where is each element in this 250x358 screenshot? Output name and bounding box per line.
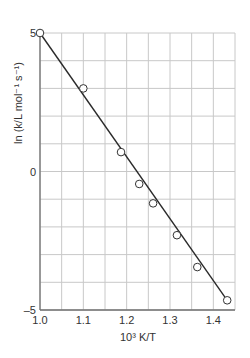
x-tick-label: 1.4 xyxy=(206,314,221,326)
data-point xyxy=(117,148,125,156)
data-point xyxy=(36,29,44,37)
x-tick-label: 1.2 xyxy=(119,314,134,326)
x-tick-label: 1.1 xyxy=(76,314,91,326)
fit-line xyxy=(40,33,227,300)
y-tick-label: 5 xyxy=(30,27,36,39)
y-tick-labels: –505 xyxy=(24,27,36,316)
y-tick-label: 0 xyxy=(30,166,36,178)
y-tick-label: –5 xyxy=(24,304,36,316)
x-tick-labels: 1.01.11.21.31.4 xyxy=(32,314,221,326)
x-tick-label: 1.3 xyxy=(162,314,177,326)
arrhenius-plot: 1.01.11.21.31.4 –505 10³ K/T ln (k/L mol… xyxy=(0,0,250,358)
data-point xyxy=(194,263,202,271)
data-point xyxy=(135,180,143,188)
data-point xyxy=(149,200,157,208)
regression-line xyxy=(40,33,227,300)
x-axis-label: 10³ K/T xyxy=(120,331,156,343)
y-axis-label: ln (k/L mol⁻¹ s⁻¹) xyxy=(12,62,24,144)
data-point xyxy=(80,85,88,93)
data-point xyxy=(173,231,181,239)
data-point xyxy=(223,297,231,305)
